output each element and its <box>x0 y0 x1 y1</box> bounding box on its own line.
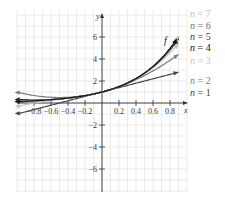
label-n3: n = 3 <box>190 55 211 66</box>
y-axis-label: y <box>95 12 100 21</box>
y-tick-label: −4 <box>88 143 97 152</box>
x-tick-label: 0.6 <box>148 107 158 116</box>
x-tick-label: −0.4 <box>61 107 76 116</box>
x-tick-label: −0.6 <box>44 107 59 116</box>
label-n2: n = 2 <box>190 75 211 86</box>
x-axis-label: x <box>183 106 188 115</box>
x-tick-label: −0.2 <box>78 107 93 116</box>
x-tick-label: 0.8 <box>165 107 175 116</box>
y-tick-label: −2 <box>88 121 97 130</box>
x-tick-label: 0.4 <box>131 107 141 116</box>
arrowhead-icon <box>173 54 178 59</box>
y-tick-label: 2 <box>93 77 97 86</box>
label-n1: n = 1 <box>190 87 211 98</box>
y-axis-arrow-icon <box>100 13 104 18</box>
y-tick-label: 4 <box>93 55 97 64</box>
x-tick-label: 0.2 <box>114 107 124 116</box>
label-n5: n = 5 <box>190 31 211 42</box>
y-tick-label: −6 <box>88 165 97 174</box>
y-tick-label: 6 <box>93 33 97 42</box>
chart: xy −0.8−0.6−0.4−0.20.20.40.60.8−6−4−2246… <box>0 0 225 207</box>
label-n6: n = 6 <box>190 20 211 31</box>
label-n7: n = 7 <box>190 8 211 19</box>
label-n4: n = 4 <box>190 42 211 53</box>
